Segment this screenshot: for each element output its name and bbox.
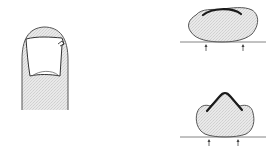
pressure-arrow-right xyxy=(237,139,240,146)
cross-section-normal-curvature xyxy=(180,8,266,51)
nail-plate xyxy=(26,37,64,76)
fingertip-section-blob xyxy=(196,93,254,137)
pressure-arrow-left xyxy=(208,139,211,146)
pressure-arrow-left xyxy=(205,44,208,51)
cross-section-pincer-curvature xyxy=(180,93,266,146)
fingertip-section-blob xyxy=(189,8,258,42)
figure-canvas xyxy=(0,0,277,146)
finger-dorsal-view xyxy=(22,27,68,110)
pressure-arrow-right xyxy=(242,44,245,51)
